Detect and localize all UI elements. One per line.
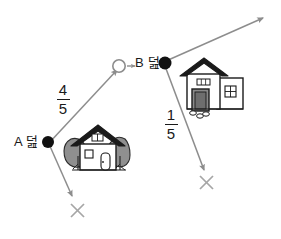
node-marker-target [113, 60, 125, 72]
fraction-left-denominator: 5 [51, 101, 75, 117]
node-marker-a [42, 136, 54, 148]
x-mark-right [200, 176, 213, 189]
house-left-icon [64, 125, 130, 170]
node-marker-b [159, 57, 172, 70]
house-right-icon [180, 58, 243, 118]
diagram-canvas: A 덢 B 덢 4 5 1 5 [0, 0, 281, 239]
node-label-a: A 덢 [14, 135, 38, 148]
fraction-right-denominator: 5 [159, 126, 183, 142]
fraction-left-numerator: 4 [51, 82, 75, 98]
fraction-right: 1 5 [159, 107, 183, 142]
fraction-left: 4 5 [51, 82, 75, 117]
arrow-b-to-upper-right [166, 18, 263, 61]
node-label-b: B 덢 [135, 56, 160, 69]
x-mark-left [71, 204, 84, 217]
fraction-right-numerator: 1 [159, 107, 183, 123]
diagram-vector-layer [0, 0, 281, 239]
